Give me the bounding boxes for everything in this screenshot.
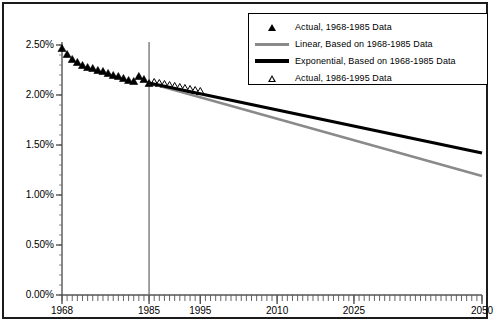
y-tick-label: 0.00%: [6, 289, 54, 300]
x-tick-label: 2050: [462, 305, 494, 316]
legend-label: Actual, 1986-1995 Data: [295, 73, 392, 83]
y-tick-label: 2.00%: [6, 89, 54, 100]
x-tick-label: 2025: [334, 305, 374, 316]
gray-line-icon: [249, 43, 295, 46]
legend-item-actual-1986-1995: Actual, 1986-1995 Data: [249, 70, 487, 86]
legend-item-exponential: Exponential, Based on 1968-1985 Data: [249, 53, 487, 69]
y-tick-label: 0.50%: [6, 239, 54, 250]
legend-item-linear: Linear, Based on 1968-1985 Data: [249, 36, 487, 52]
open-triangle-icon: [249, 75, 295, 82]
x-tick-label: 1985: [129, 305, 169, 316]
legend-item-actual-1968-1985: Actual, 1968-1985 Data: [249, 19, 487, 35]
chart-legend: Actual, 1968-1985 Data Linear, Based on …: [248, 13, 488, 85]
legend-label: Actual, 1968-1985 Data: [295, 22, 392, 32]
x-tick-label: 1995: [180, 305, 220, 316]
legend-label: Linear, Based on 1968-1985 Data: [295, 39, 433, 49]
y-tick-label: 2.50%: [6, 39, 54, 50]
legend-label: Exponential, Based on 1968-1985 Data: [295, 56, 456, 66]
x-tick-label: 2010: [257, 305, 297, 316]
y-tick-label: 1.00%: [6, 189, 54, 200]
filled-triangle-icon: [249, 24, 295, 31]
x-tick-label: 1968: [42, 305, 82, 316]
black-line-icon: [249, 59, 295, 63]
y-tick-label: 1.50%: [6, 139, 54, 150]
